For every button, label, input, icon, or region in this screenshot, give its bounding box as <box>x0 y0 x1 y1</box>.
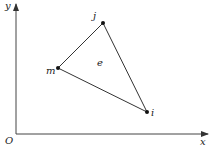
node-j <box>101 21 105 25</box>
element-label: e <box>97 58 103 68</box>
y-axis-label: y <box>5 1 11 11</box>
node-j-label: j <box>93 11 96 21</box>
node-m <box>56 66 60 70</box>
diagram-canvas <box>0 0 216 159</box>
origin-label: O <box>5 136 13 146</box>
x-axis-label: x <box>200 137 206 147</box>
node-i-label: i <box>151 108 154 118</box>
node-i <box>145 110 149 114</box>
node-m-label: m <box>46 66 55 76</box>
